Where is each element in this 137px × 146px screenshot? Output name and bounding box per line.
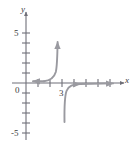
coordinate-plane [0,0,137,146]
right-branch-path [64,84,80,122]
graph-figure: 5 -5 3 0 y x [0,0,137,146]
y-axis [22,12,30,140]
y-axis-label: y [21,5,25,14]
left-branch-path [44,42,58,81]
x-axis-tick-label-3: 3 [59,89,64,98]
curve-right-branch [64,83,113,122]
y-axis-tick-label-negative-5: -5 [11,129,19,138]
right-branch-tail-path [80,83,113,84]
x-axis-label: x [125,76,129,85]
curve-left-branch [33,42,58,81]
y-axis-tick-label-5: 5 [14,29,19,38]
origin-label: 0 [15,86,20,95]
